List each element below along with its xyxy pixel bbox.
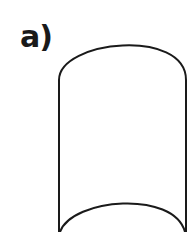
cylinder-shape [0, 0, 195, 232]
cylinder-top-arc [59, 45, 186, 80]
cylinder-bottom-arc [60, 203, 185, 232]
